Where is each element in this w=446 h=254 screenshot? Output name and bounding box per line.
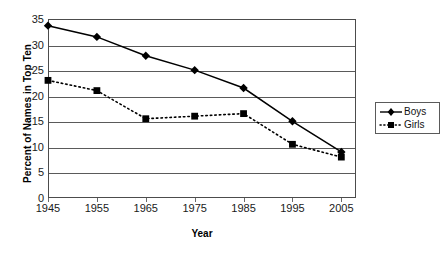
x-axis-tick-labels: 1945195519651975198519952005 [48, 202, 356, 218]
y-axis-tick-labels: 05101520253035 [0, 19, 44, 198]
legend-entry-boys: Boys [379, 105, 436, 118]
chart-figure: Percent of Names in Top Ten 051015202530… [0, 0, 446, 254]
x-axis-tick-label: 1975 [173, 202, 217, 215]
x-axis-tick-label: 1985 [222, 202, 266, 215]
x-axis-tick-label: 1995 [270, 202, 314, 215]
y-axis-tick-label: 20 [2, 90, 44, 101]
series-girls [45, 77, 345, 161]
series-layer [48, 19, 356, 198]
data-point-marker [288, 117, 296, 125]
y-axis-tick-label: 30 [2, 39, 44, 50]
legend-label-girls: Girls [403, 119, 425, 131]
data-point-marker [44, 21, 52, 29]
data-point-marker [338, 154, 345, 161]
data-point-marker [289, 141, 296, 148]
legend-swatch-girls-square-icon [379, 119, 403, 131]
y-axis-tick-label: 15 [2, 116, 44, 127]
data-point-marker [142, 115, 149, 122]
data-point-marker [142, 52, 150, 60]
data-point-marker [239, 84, 247, 92]
x-axis-tick-label: 1955 [75, 202, 119, 215]
data-point-marker [93, 87, 100, 94]
y-axis-tick-label: 5 [2, 167, 44, 178]
data-point-marker [45, 77, 52, 84]
data-point-marker [190, 66, 198, 74]
y-axis-tick-label: 35 [2, 14, 44, 25]
legend-swatch-boys-diamond-icon [379, 106, 403, 118]
legend-label-boys: Boys [403, 106, 426, 118]
legend-entry-girls: Girls [379, 118, 436, 131]
y-axis-tick-label: 25 [2, 65, 44, 76]
x-axis-tick-label: 1945 [26, 202, 70, 215]
chart-legend: Boys Girls [375, 102, 440, 134]
y-axis-tick-label: 10 [2, 141, 44, 152]
data-point-marker [240, 110, 247, 117]
x-axis-title: Year [48, 228, 356, 239]
x-axis-tick-label: 2005 [319, 202, 363, 215]
data-point-marker [93, 33, 101, 41]
data-point-marker [191, 113, 198, 120]
x-axis-tick-label: 1965 [124, 202, 168, 215]
